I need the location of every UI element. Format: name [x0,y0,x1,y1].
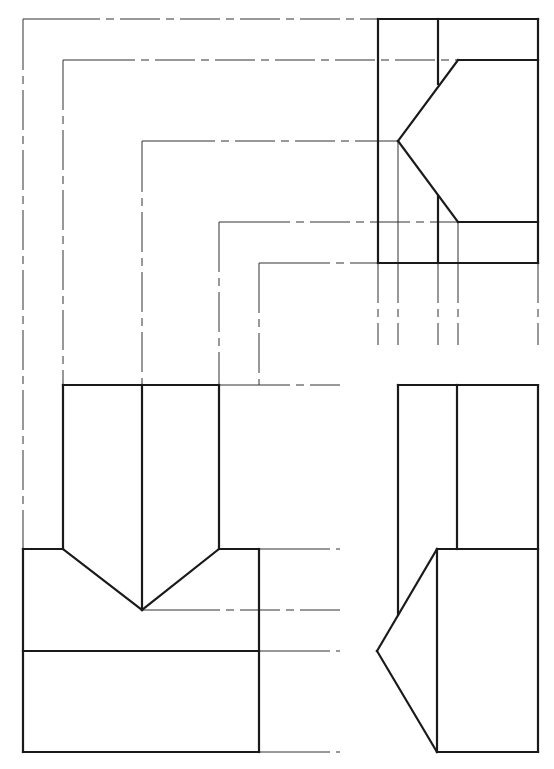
outline-edge [398,141,458,222]
outline-edge [142,549,219,610]
side-view [377,385,538,752]
outline-edge [377,651,437,752]
orthographic-drawing [0,0,554,769]
top-view [378,19,538,263]
outline-edge [398,60,458,141]
outline-edge [63,549,142,610]
front-view [23,385,259,752]
outline-edge [377,549,437,651]
